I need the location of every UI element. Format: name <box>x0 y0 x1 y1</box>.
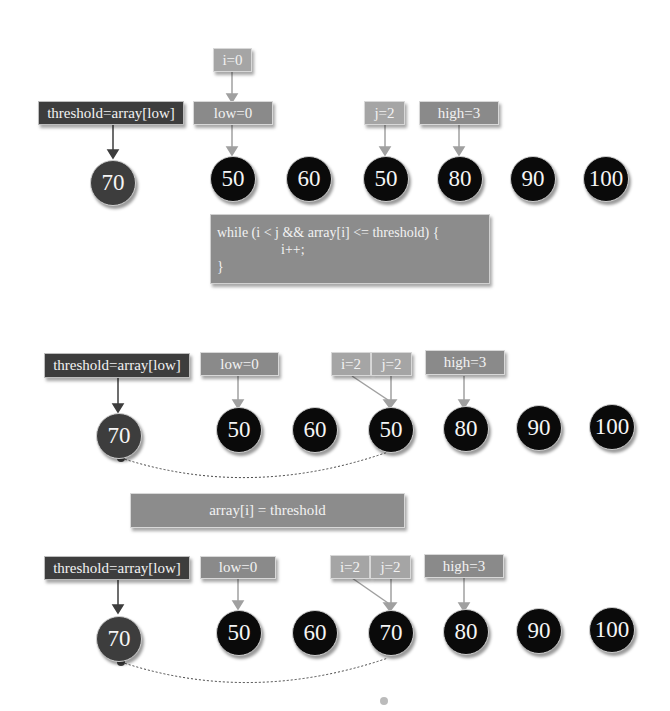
array-node: 100 <box>583 156 629 202</box>
i-pointer-label: i=2 <box>331 352 371 376</box>
threshold-label: threshold=array[low] <box>38 101 184 125</box>
array-node: 80 <box>443 406 489 452</box>
threshold-label: threshold=array[low] <box>44 353 190 378</box>
low-pointer-label: low=0 <box>193 101 273 125</box>
array-node: 50 <box>368 407 414 453</box>
array-node: 60 <box>292 407 338 453</box>
array-node: 90 <box>516 608 562 654</box>
assign-statement: array[i] = threshold <box>130 493 405 528</box>
low-pointer-label: low=0 <box>200 352 279 376</box>
code-line: i++; <box>217 242 483 259</box>
array-node: 50 <box>210 156 256 202</box>
array-node: 90 <box>510 156 556 202</box>
j-pointer-label: j=2 <box>371 352 412 376</box>
j-pointer-label: j=2 <box>364 101 405 125</box>
high-pointer-label: high=3 <box>419 101 499 125</box>
code-line: while (i < j && array[i] <= threshold) { <box>217 225 483 242</box>
low-pointer-label: low=0 <box>200 556 276 579</box>
j-pointer-label: j=2 <box>370 555 411 579</box>
high-pointer-label: high=3 <box>424 554 504 578</box>
pivot-node: 70 <box>96 413 142 459</box>
pivot-node: 70 <box>96 616 142 662</box>
array-node: 100 <box>589 607 635 653</box>
array-node: 80 <box>437 156 483 202</box>
array-node: 50 <box>216 407 262 453</box>
array-node: 60 <box>292 610 338 656</box>
array-node: 70 <box>368 610 414 656</box>
array-node: 100 <box>589 404 635 450</box>
high-pointer-label: high=3 <box>425 350 505 375</box>
code-line: } <box>217 259 483 276</box>
array-node: 60 <box>286 156 332 202</box>
array-node: 80 <box>443 609 489 655</box>
code-block: while (i < j && array[i] <= threshold) {… <box>210 214 490 284</box>
i-pointer-label: i=0 <box>213 48 252 72</box>
threshold-label: threshold=array[low] <box>44 556 190 580</box>
i-pointer-label: i=2 <box>330 555 370 579</box>
array-node: 90 <box>516 405 562 451</box>
pivot-node: 70 <box>90 160 136 206</box>
array-node: 50 <box>216 610 262 656</box>
array-node: 50 <box>363 156 409 202</box>
